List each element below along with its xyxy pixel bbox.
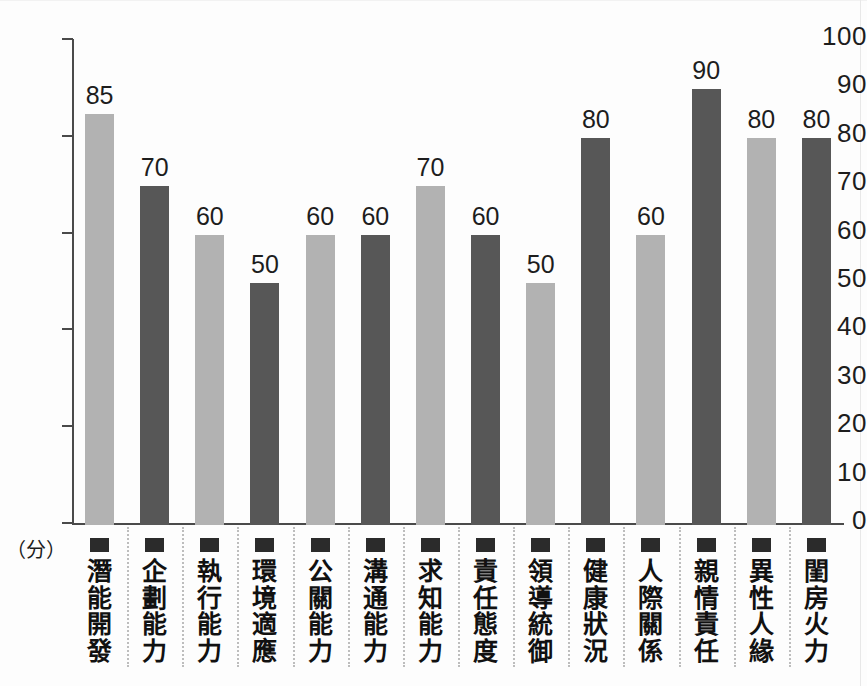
bar-value-label: 60 xyxy=(456,204,516,229)
category-label-4: 環 境 適 應 xyxy=(237,525,292,686)
bar-slot: 80 xyxy=(568,39,623,525)
bar-slot: 60 xyxy=(458,39,513,525)
bar xyxy=(802,138,831,525)
category-bullet-icon xyxy=(421,538,440,552)
category-label-text: 健 康 狀 況 xyxy=(568,559,623,665)
category-label-10: 健 康 狀 況 xyxy=(568,525,623,686)
bar-slot: 80 xyxy=(789,39,844,525)
bar xyxy=(306,235,335,525)
bar xyxy=(692,89,721,525)
category-bullet-icon xyxy=(476,538,495,552)
bar-slot: 85 xyxy=(72,39,127,525)
bar-slot: 60 xyxy=(293,39,348,525)
category-label-text: 閨 房 火 力 xyxy=(789,559,844,665)
category-label-text: 異 性 人 緣 xyxy=(734,559,789,665)
bar-slot: 50 xyxy=(513,39,568,525)
category-label-9: 領 導 統 御 xyxy=(513,525,568,686)
bar-slot: 90 xyxy=(679,39,734,525)
category-bullet-icon xyxy=(752,538,771,552)
category-label-14: 閨 房 火 力 xyxy=(789,525,844,686)
bar-value-label: 60 xyxy=(345,204,405,229)
bar xyxy=(361,235,390,525)
bar xyxy=(416,186,445,525)
category-label-5: 公 關 能 力 xyxy=(293,525,348,686)
category-label-text: 潛 能 開 發 xyxy=(72,559,127,665)
category-label-13: 異 性 人 緣 xyxy=(734,525,789,686)
bar-value-label: 90 xyxy=(676,58,736,83)
category-labels-group: 潛 能 開 發企 劃 能 力執 行 能 力環 境 適 應公 關 能 力溝 通 能… xyxy=(72,525,844,686)
bar-slot: 60 xyxy=(182,39,237,525)
category-bullet-icon xyxy=(90,538,109,552)
category-bullet-icon xyxy=(531,538,550,552)
bar xyxy=(195,235,224,525)
bar-slot: 60 xyxy=(623,39,678,525)
bar xyxy=(526,283,555,525)
category-bullet-icon xyxy=(697,538,716,552)
bar-value-label: 70 xyxy=(125,155,185,180)
category-bullet-icon xyxy=(366,538,385,552)
bars-group: 8570605060607060508060908080 xyxy=(72,39,844,525)
category-label-text: 公 關 能 力 xyxy=(293,559,348,665)
category-bullet-icon xyxy=(807,538,826,552)
bar-slot: 50 xyxy=(237,39,292,525)
bar-chart: 1009080706050403020100 （分） 8570605060607… xyxy=(0,0,867,686)
category-label-1: 潛 能 開 發 xyxy=(72,525,127,686)
category-label-12: 親 情 責 任 xyxy=(679,525,734,686)
bar xyxy=(471,235,500,525)
category-bullet-icon xyxy=(641,538,660,552)
bar-value-label: 50 xyxy=(511,252,571,277)
bar xyxy=(747,138,776,525)
category-label-11: 人 際 關 係 xyxy=(623,525,678,686)
bar-slot: 70 xyxy=(127,39,182,525)
bar xyxy=(581,138,610,525)
category-label-8: 責 任 態 度 xyxy=(458,525,513,686)
category-label-3: 執 行 能 力 xyxy=(182,525,237,686)
bar xyxy=(250,283,279,525)
category-label-text: 執 行 能 力 xyxy=(182,559,237,665)
bar-slot: 80 xyxy=(734,39,789,525)
category-label-text: 企 劃 能 力 xyxy=(127,559,182,665)
bar-value-label: 80 xyxy=(566,107,626,132)
bar-value-label: 85 xyxy=(70,83,130,108)
category-label-text: 領 導 統 御 xyxy=(513,559,568,665)
category-label-7: 求 知 能 力 xyxy=(403,525,458,686)
bar-value-label: 60 xyxy=(180,204,240,229)
category-label-text: 環 境 適 應 xyxy=(237,559,292,665)
bar-value-label: 60 xyxy=(621,204,681,229)
category-bullet-icon xyxy=(586,538,605,552)
category-bullet-icon xyxy=(145,538,164,552)
bar xyxy=(636,235,665,525)
bar xyxy=(140,186,169,525)
bar-value-label: 70 xyxy=(400,155,460,180)
bar xyxy=(85,114,114,525)
category-bullet-icon xyxy=(200,538,219,552)
bar-value-label: 50 xyxy=(235,252,295,277)
plot-area: 1009080706050403020100 （分） 8570605060607… xyxy=(0,0,867,686)
y-axis-unit-label: （分） xyxy=(0,534,66,563)
category-label-2: 企 劃 能 力 xyxy=(127,525,182,686)
category-label-text: 親 情 責 任 xyxy=(679,559,734,665)
bar-value-label: 80 xyxy=(786,107,846,132)
category-label-6: 溝 通 能 力 xyxy=(348,525,403,686)
category-label-text: 求 知 能 力 xyxy=(403,559,458,665)
category-bullet-icon xyxy=(311,538,330,552)
bar-value-label: 80 xyxy=(731,107,791,132)
category-label-text: 溝 通 能 力 xyxy=(348,559,403,665)
bar-value-label: 60 xyxy=(290,204,350,229)
category-label-text: 責 任 態 度 xyxy=(458,559,513,665)
bar-slot: 60 xyxy=(348,39,403,525)
bar-slot: 70 xyxy=(403,39,458,525)
category-bullet-icon xyxy=(255,538,274,552)
category-label-text: 人 際 關 係 xyxy=(623,559,678,665)
